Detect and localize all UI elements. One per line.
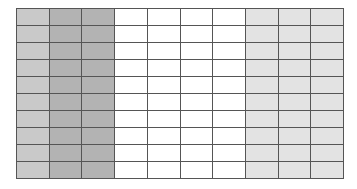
grid-cell xyxy=(213,162,246,179)
grid-cell xyxy=(246,77,279,94)
grid-cell xyxy=(17,43,50,60)
grid-cell xyxy=(181,162,214,179)
grid-cell xyxy=(279,77,312,94)
grid-cell xyxy=(82,128,115,145)
grid-cell xyxy=(50,145,83,162)
hundred-grid xyxy=(16,8,344,179)
grid-cell xyxy=(246,26,279,43)
grid-cell xyxy=(115,145,148,162)
grid-cell xyxy=(115,26,148,43)
grid-cell xyxy=(213,26,246,43)
grid-cell xyxy=(311,128,344,145)
grid-cell xyxy=(213,60,246,77)
grid-cell xyxy=(311,26,344,43)
grid-cell xyxy=(82,111,115,128)
grid-cell xyxy=(17,128,50,145)
grid-cell xyxy=(50,9,83,26)
grid-cell xyxy=(17,77,50,94)
grid-cell xyxy=(82,26,115,43)
grid-cell xyxy=(279,9,312,26)
grid-cell xyxy=(17,60,50,77)
grid-cell xyxy=(246,43,279,60)
grid-cell xyxy=(311,9,344,26)
grid-cell xyxy=(213,77,246,94)
grid-cell xyxy=(181,94,214,111)
grid-cell xyxy=(311,162,344,179)
grid-cell xyxy=(148,60,181,77)
grid-cell xyxy=(115,9,148,26)
grid-cell xyxy=(311,145,344,162)
grid-cell xyxy=(246,162,279,179)
grid-cell xyxy=(148,43,181,60)
grid-cell xyxy=(50,60,83,77)
grid-cell xyxy=(246,94,279,111)
grid-cell xyxy=(279,128,312,145)
grid-cell xyxy=(148,9,181,26)
grid-cell xyxy=(82,9,115,26)
grid-cell xyxy=(279,26,312,43)
grid-cell xyxy=(17,111,50,128)
grid-cell xyxy=(279,60,312,77)
grid-cell xyxy=(115,60,148,77)
grid-cell xyxy=(279,43,312,60)
grid-cell xyxy=(82,162,115,179)
grid-cell xyxy=(213,145,246,162)
grid-cell xyxy=(115,77,148,94)
grid-cell xyxy=(82,77,115,94)
grid-cell xyxy=(17,9,50,26)
grid-cell xyxy=(115,94,148,111)
grid-cell xyxy=(148,145,181,162)
grid-cell xyxy=(181,60,214,77)
grid-cell xyxy=(181,26,214,43)
grid-cell xyxy=(50,26,83,43)
grid-cell xyxy=(148,94,181,111)
grid-cell xyxy=(115,128,148,145)
grid-cell xyxy=(279,111,312,128)
grid-cell xyxy=(181,111,214,128)
grid-cell xyxy=(82,43,115,60)
grid-cell xyxy=(148,128,181,145)
grid-cell xyxy=(82,94,115,111)
grid-cell xyxy=(213,9,246,26)
grid-cell xyxy=(115,111,148,128)
grid-cell xyxy=(311,60,344,77)
grid-cell xyxy=(311,77,344,94)
grid-cell xyxy=(213,111,246,128)
grid-cell xyxy=(311,43,344,60)
grid-cell xyxy=(82,60,115,77)
grid-cell xyxy=(279,162,312,179)
grid-cell xyxy=(246,9,279,26)
grid-cell xyxy=(246,111,279,128)
grid-cell xyxy=(148,77,181,94)
grid-cell xyxy=(115,43,148,60)
grid-cell xyxy=(50,162,83,179)
grid-cell xyxy=(213,128,246,145)
grid-cell xyxy=(279,94,312,111)
grid-cell xyxy=(17,145,50,162)
grid-cell xyxy=(148,162,181,179)
grid-cell xyxy=(213,94,246,111)
grid-cell xyxy=(311,111,344,128)
grid-cell xyxy=(246,60,279,77)
grid-cell xyxy=(213,43,246,60)
grid-cell xyxy=(181,145,214,162)
grid-cell xyxy=(181,77,214,94)
grid-cell xyxy=(50,94,83,111)
grid-cell xyxy=(181,43,214,60)
grid-cell xyxy=(50,77,83,94)
grid-cell xyxy=(148,26,181,43)
grid-cell xyxy=(246,145,279,162)
grid-cell xyxy=(181,128,214,145)
grid-cell xyxy=(17,162,50,179)
grid-cell xyxy=(50,128,83,145)
grid-cell xyxy=(82,145,115,162)
grid-cell xyxy=(279,145,312,162)
grid-cell xyxy=(246,128,279,145)
grid-cell xyxy=(311,94,344,111)
grid-cell xyxy=(50,43,83,60)
grid-cell xyxy=(17,26,50,43)
grid-cell xyxy=(17,94,50,111)
grid-cell xyxy=(50,111,83,128)
grid-cell xyxy=(148,111,181,128)
grid-cell xyxy=(115,162,148,179)
